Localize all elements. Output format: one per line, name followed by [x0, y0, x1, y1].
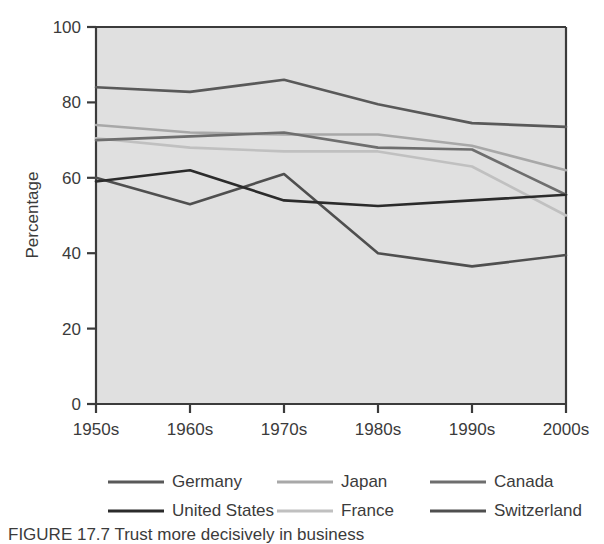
legend-label: Switzerland: [494, 501, 582, 520]
x-tick-label: 1970s: [261, 420, 307, 439]
y-tick-label: 40: [62, 244, 81, 263]
legend-label: Germany: [172, 472, 242, 491]
legend-label: Canada: [494, 472, 554, 491]
y-tick-label: 100: [53, 18, 81, 37]
legend-item[interactable]: France: [277, 501, 394, 520]
x-axis-ticks: 1950s1960s1970s1980s1990s2000s: [73, 404, 589, 439]
y-axis-label: Percentage: [23, 172, 42, 259]
y-tick-label: 80: [62, 93, 81, 112]
legend-item[interactable]: United States: [108, 501, 274, 520]
figure-container: Percentage 020406080100 1950s1960s1970s1…: [0, 0, 604, 544]
line-chart: Percentage 020406080100 1950s1960s1970s1…: [0, 0, 604, 544]
x-tick-label: 1990s: [449, 420, 495, 439]
legend-item[interactable]: Canada: [430, 472, 554, 491]
legend-label: France: [341, 501, 394, 520]
x-tick-label: 1950s: [73, 420, 119, 439]
x-tick-label: 2000s: [543, 420, 589, 439]
plot-area-background: [96, 27, 566, 404]
y-axis-ticks: 020406080100: [53, 18, 96, 414]
legend-item[interactable]: Switzerland: [430, 501, 582, 520]
y-tick-label: 60: [62, 169, 81, 188]
legend-item[interactable]: Germany: [108, 472, 242, 491]
x-tick-label: 1960s: [167, 420, 213, 439]
x-tick-label: 1980s: [355, 420, 401, 439]
legend-label: Japan: [341, 472, 387, 491]
y-tick-label: 0: [72, 395, 81, 414]
legend-label: United States: [172, 501, 274, 520]
chart-legend: GermanyJapanCanadaUnited StatesFranceSwi…: [108, 472, 582, 520]
legend-item[interactable]: Japan: [277, 472, 387, 491]
y-tick-label: 20: [62, 320, 81, 339]
figure-caption: FIGURE 17.7 Trust more decisively in bus…: [8, 525, 364, 544]
